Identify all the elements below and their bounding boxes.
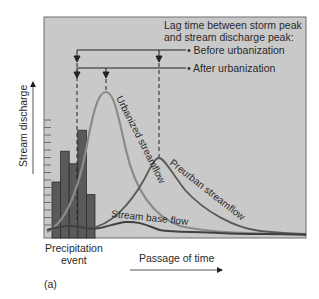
legend-title-line1: Lag time between storm peak bbox=[164, 19, 302, 31]
precipitation-label-line2: event bbox=[61, 254, 87, 266]
panel-label: (a) bbox=[44, 278, 57, 290]
legend-after-label: • After urbanization bbox=[187, 62, 275, 74]
precipitation-bar bbox=[86, 195, 95, 238]
precipitation-bar bbox=[61, 151, 70, 238]
precipitation-bar bbox=[52, 182, 61, 238]
precipitation-label-line1: Precipitation bbox=[45, 242, 103, 254]
legend-before-label: • Before urbanization bbox=[187, 44, 285, 56]
hydrograph-figure: Urbanized streamflow Preurban streamflow… bbox=[0, 0, 319, 299]
y-axis-label: Stream discharge bbox=[17, 85, 29, 167]
precipitation-bar bbox=[78, 130, 87, 238]
legend-title-line2: and stream discharge peak: bbox=[164, 31, 294, 43]
x-axis-label: Passage of time bbox=[139, 252, 214, 264]
